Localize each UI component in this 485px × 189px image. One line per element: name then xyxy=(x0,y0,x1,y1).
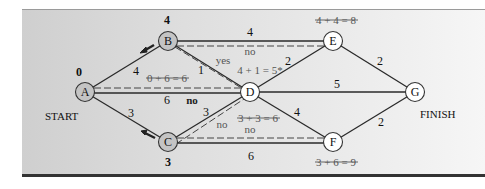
weight-c-d: 3 xyxy=(203,105,209,119)
no-c-d: no xyxy=(217,118,229,130)
weight-a-c: 3 xyxy=(128,106,134,120)
start-label: START xyxy=(45,110,79,122)
weight-a-d: 6 xyxy=(164,93,170,107)
weight-b-e: 4 xyxy=(247,25,253,39)
node-f-label: F xyxy=(330,135,337,149)
weight-c-f: 6 xyxy=(248,149,254,163)
node-b-value: 4 xyxy=(164,13,170,27)
node-d-label: D xyxy=(246,85,255,99)
network-svg: A B C D E F G 0 4 3 START FINISH 4 3 6 1… xyxy=(0,0,485,189)
node-c-value: 3 xyxy=(165,155,171,169)
no-b-e: no xyxy=(245,45,257,57)
arrow-head-icon xyxy=(140,47,147,53)
direction-arrows xyxy=(140,45,155,138)
edge-e-g xyxy=(333,41,415,92)
calc-b-d: 4 + 1 = 5* xyxy=(237,64,282,76)
edge-a-b xyxy=(85,41,168,92)
node-a-label: A xyxy=(81,85,90,99)
weight-b-d: 1 xyxy=(198,63,204,77)
edge-a-c xyxy=(85,92,168,142)
edge-f-g xyxy=(333,92,415,142)
node-g-label: G xyxy=(411,85,420,99)
weight-a-b: 4 xyxy=(133,64,139,78)
node-c-label: C xyxy=(164,135,172,149)
node-e-label: E xyxy=(329,34,336,48)
no-c-f: no xyxy=(245,123,257,135)
no-a-d: no xyxy=(186,94,198,106)
weight-d-e: 2 xyxy=(285,54,291,68)
weight-d-g: 5 xyxy=(334,77,340,91)
finish-label: FINISH xyxy=(420,108,456,120)
node-b-label: B xyxy=(164,34,172,48)
network-diagram: A B C D E F G 0 4 3 START FINISH 4 3 6 1… xyxy=(0,0,485,189)
weight-d-f: 4 xyxy=(294,105,300,119)
node-a-value: 0 xyxy=(76,65,82,79)
weight-f-g: 2 xyxy=(378,115,384,129)
yes-b-d: yes xyxy=(216,54,231,66)
weight-e-g: 2 xyxy=(377,54,383,68)
